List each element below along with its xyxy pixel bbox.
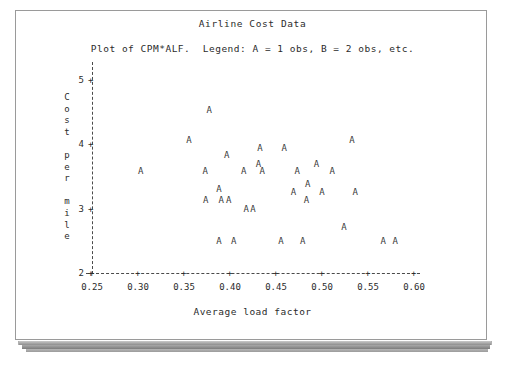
y-tick-mark: +	[88, 205, 93, 214]
data-point-marker: A	[230, 237, 238, 246]
data-point-marker: A	[312, 160, 320, 169]
data-point-marker: A	[256, 144, 264, 153]
y-tick-mark: +	[88, 76, 93, 85]
x-tick-label: 0.50	[302, 283, 342, 292]
data-point-marker: A	[249, 205, 257, 214]
y-axis-line	[92, 62, 93, 274]
y-axis-title-char: s	[60, 115, 74, 127]
x-tick-mark: +	[319, 269, 324, 278]
y-axis-title-char: o	[60, 104, 74, 116]
data-point-marker: A	[293, 167, 301, 176]
data-point-marker: A	[277, 237, 285, 246]
data-point-marker: A	[289, 188, 297, 197]
data-point-marker: A	[340, 223, 348, 232]
chart-title: Airline Cost Data	[0, 18, 505, 29]
x-tick-mark: +	[181, 269, 186, 278]
data-point-marker: A	[240, 167, 248, 176]
data-point-marker: A	[223, 151, 231, 160]
x-tick-label: 0.30	[118, 283, 158, 292]
x-tick-label: 0.55	[348, 283, 388, 292]
x-tick-mark: +	[273, 269, 278, 278]
data-point-marker: A	[215, 185, 223, 194]
y-axis-title-char: r	[60, 173, 74, 185]
y-tick-label: 3	[72, 205, 84, 214]
x-tick-label: 0.40	[210, 283, 250, 292]
data-point-marker: A	[225, 196, 233, 205]
x-axis-title: Average load factor	[0, 306, 505, 317]
data-point-marker: A	[215, 237, 223, 246]
x-tick-mark: +	[135, 269, 140, 278]
x-tick-mark: +	[411, 269, 416, 278]
chart-subtitle-legend: Plot of CPM*ALF. Legend: A = 1 obs, B = …	[0, 43, 505, 54]
data-point-marker: A	[258, 167, 266, 176]
x-tick-label: 0.45	[256, 283, 296, 292]
y-axis-title-char: e	[60, 162, 74, 174]
data-point-marker: A	[302, 196, 310, 205]
scatter-plot: Airline Cost Data Plot of CPM*ALF. Legen…	[0, 0, 505, 370]
y-tick-label: 2	[72, 269, 84, 278]
data-point-marker: A	[391, 237, 399, 246]
data-point-marker: A	[202, 196, 210, 205]
data-point-marker: A	[201, 167, 209, 176]
y-axis-title-char: t	[60, 127, 74, 139]
y-axis-title-char: l	[60, 220, 74, 232]
x-tick-label: 0.35	[164, 283, 204, 292]
data-point-marker: A	[379, 237, 387, 246]
y-axis-title-char: C	[60, 92, 74, 104]
y-tick-label: 5	[72, 76, 84, 85]
y-axis-title: Cost per mile	[60, 92, 74, 243]
x-tick-mark: +	[89, 269, 94, 278]
data-point-marker: A	[328, 167, 336, 176]
data-point-marker: A	[205, 106, 213, 115]
data-point-marker: A	[137, 167, 145, 176]
data-point-marker: A	[351, 188, 359, 197]
data-point-marker: A	[348, 136, 356, 145]
y-axis-title-char: p	[60, 150, 74, 162]
y-tick-label: 4	[72, 140, 84, 149]
y-tick-mark: +	[88, 140, 93, 149]
x-tick-mark: +	[365, 269, 370, 278]
x-tick-mark: +	[227, 269, 232, 278]
data-point-marker: A	[304, 180, 312, 189]
x-tick-label: 0.25	[72, 283, 112, 292]
x-tick-label: 0.60	[394, 283, 434, 292]
data-point-marker: A	[280, 144, 288, 153]
data-point-marker: A	[318, 188, 326, 197]
data-point-marker: A	[299, 237, 307, 246]
y-axis-title-char: e	[60, 231, 74, 243]
y-axis-title-char	[60, 185, 74, 197]
data-point-marker: A	[185, 136, 193, 145]
